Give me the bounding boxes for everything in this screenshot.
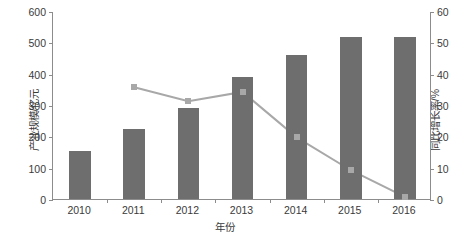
line-marker — [240, 89, 246, 95]
y-axis-right-tick — [430, 43, 434, 44]
bar — [232, 77, 254, 199]
y-axis-left-tick-label: 400 — [28, 70, 46, 80]
bar — [123, 129, 145, 199]
y-axis-left-tick — [49, 137, 53, 138]
y-axis-left-tick — [49, 200, 53, 201]
line-marker — [294, 134, 300, 140]
y-axis-right-tick-label: 10 — [437, 164, 449, 174]
y-axis-right-tick — [430, 75, 434, 76]
line-marker — [131, 84, 137, 90]
y-axis-right-tick-label: 40 — [437, 70, 449, 80]
bar — [286, 55, 308, 199]
x-axis-title: 年份 — [0, 219, 465, 234]
y-axis-left-tick — [49, 106, 53, 107]
bar — [178, 108, 200, 199]
y-axis-right-tick — [430, 200, 434, 201]
y-axis-right-tick — [430, 169, 434, 170]
y-axis-left-tick-label: 500 — [28, 38, 46, 48]
growth-rate-polyline — [134, 87, 405, 197]
y-axis-left-tick-label: 0 — [40, 195, 46, 205]
chart-figure: 产业规模/亿元 同比增长率/% 年份 010020030040050060001… — [0, 0, 465, 240]
y-axis-right-tick-label: 60 — [437, 7, 449, 17]
x-axis-tick-label: 2010 — [67, 204, 90, 216]
y-axis-right-tick — [430, 137, 434, 138]
x-axis-tick — [107, 199, 108, 203]
x-axis-tick — [215, 199, 216, 203]
y-axis-right-tick — [430, 12, 434, 13]
plot-area: 01002003004005006000102030405060 — [52, 12, 431, 200]
x-axis-title-text: 年份 — [215, 221, 235, 233]
bar — [340, 37, 362, 199]
bar — [394, 37, 416, 199]
y-axis-left-tick — [49, 75, 53, 76]
line-marker — [185, 98, 191, 104]
line-marker — [402, 194, 408, 200]
x-axis-tick — [161, 199, 162, 203]
x-axis-tick-label: 2016 — [392, 204, 415, 216]
x-axis-tick-label: 2011 — [122, 204, 145, 216]
y-axis-right-tick-label: 30 — [437, 101, 449, 111]
y-axis-left-tick — [49, 43, 53, 44]
y-axis-left-tick-label: 600 — [28, 7, 46, 17]
y-axis-left-tick — [49, 169, 53, 170]
x-axis-tick-label: 2015 — [338, 204, 361, 216]
y-axis-left-tick-label: 200 — [28, 132, 46, 142]
y-axis-right-tick-label: 0 — [437, 195, 443, 205]
y-axis-right-tick-label: 20 — [437, 132, 449, 142]
y-axis-left-tick-label: 300 — [28, 101, 46, 111]
y-axis-left-tick — [49, 12, 53, 13]
x-axis-tick-label: 2014 — [284, 204, 307, 216]
x-axis-tick-label: 2013 — [230, 204, 253, 216]
x-axis-tick-label: 2012 — [176, 204, 199, 216]
x-axis-tick — [378, 199, 379, 203]
y-axis-right-tick-label: 50 — [437, 38, 449, 48]
x-axis-tick — [270, 199, 271, 203]
line-marker — [348, 167, 354, 173]
bar — [69, 151, 91, 199]
y-axis-right-tick — [430, 106, 434, 107]
y-axis-left-tick-label: 100 — [28, 164, 46, 174]
x-axis-tick — [324, 199, 325, 203]
